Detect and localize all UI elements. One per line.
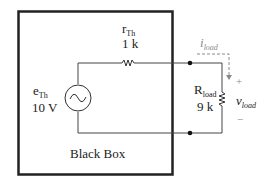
terminal-top-dot xyxy=(188,61,193,66)
resistor-rload-icon xyxy=(219,92,225,106)
rload-value-label: 9 k xyxy=(197,100,213,113)
vload-plus-label: + xyxy=(236,76,242,87)
resistor-rth-icon xyxy=(122,60,134,66)
sine-wave-icon xyxy=(70,94,86,102)
iload-label: iload xyxy=(200,36,218,52)
current-arrowhead-icon xyxy=(226,75,232,80)
vload-name-label: vload xyxy=(236,94,256,110)
terminal-bottom-dot xyxy=(188,131,193,136)
rload-name-label: Rload xyxy=(194,83,216,99)
rth-value-label: 1 k xyxy=(122,37,138,50)
eth-value-label: 10 V xyxy=(32,101,57,114)
black-box-label: Black Box xyxy=(70,147,125,160)
vload-minus-label: − xyxy=(237,114,243,125)
wire-top-left xyxy=(78,63,122,84)
eth-name-label: eTh xyxy=(33,84,48,100)
current-arrow-path xyxy=(197,54,229,76)
